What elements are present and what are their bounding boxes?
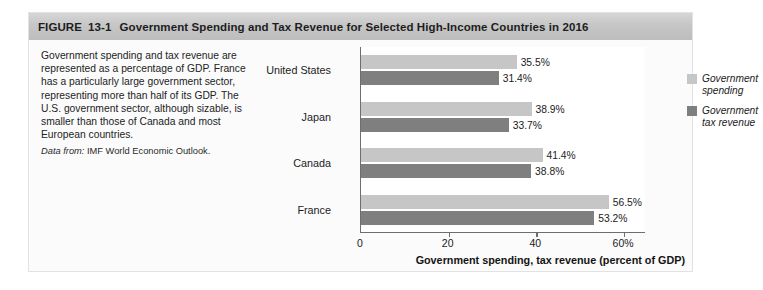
figure-label: FIGURE [38, 21, 82, 33]
bar-value-label: 56.5% [609, 196, 642, 207]
legend-label-revenue: Government tax revenue [702, 105, 763, 130]
category-label-france: France [261, 204, 331, 216]
caption-source: Data from: IMF World Economic Outlook. [41, 145, 259, 157]
bar-value-label: 53.2% [594, 212, 627, 223]
category-axis-labels: United StatesJapanCanadaFrance [261, 47, 331, 233]
legend-swatch-revenue-icon [687, 106, 697, 116]
chart-legend: Government spending Government tax reven… [687, 73, 763, 137]
category-label-united-states: United States [261, 64, 331, 76]
source-lead: Data from: [41, 146, 84, 156]
legend-item-spending: Government spending [687, 73, 763, 98]
chart-area: United StatesJapanCanadaFrance 35.5%31.4… [261, 47, 691, 262]
figure-container: FIGURE 13-1 Government Spending and Tax … [28, 12, 693, 272]
bar-canada-spending [361, 148, 543, 162]
bar-united-states-revenue [361, 71, 499, 85]
x-axis-title: Government spending, tax revenue (percen… [360, 254, 685, 266]
bar-france-revenue [361, 211, 594, 225]
legend-swatch-spending-icon [687, 74, 697, 84]
source-text: IMF World Economic Outlook. [87, 146, 210, 156]
bar-united-states-spending [361, 55, 517, 69]
bar-value-label: 31.4% [499, 73, 532, 84]
x-tick-label: 20 [442, 237, 454, 249]
bar-japan-revenue [361, 118, 509, 132]
figure-number: 13-1 [88, 21, 111, 33]
caption-text: Government spending and tax revenue are … [41, 49, 259, 141]
bar-value-label: 33.7% [509, 119, 542, 130]
bar-france-spending [361, 195, 609, 209]
bar-value-label: 38.9% [532, 103, 565, 114]
caption-block: Government spending and tax revenue are … [41, 49, 259, 157]
bar-japan-spending [361, 102, 532, 116]
bar-value-label: 38.8% [531, 166, 564, 177]
bar-value-label: 41.4% [543, 150, 576, 161]
x-tick-label: 60% [613, 237, 634, 249]
legend-label-spending: Government spending [702, 73, 763, 98]
legend-item-revenue: Government tax revenue [687, 105, 763, 130]
bar-canada-revenue [361, 164, 531, 178]
x-tick-label: 0 [357, 237, 363, 249]
figure-header: FIGURE 13-1 Government Spending and Tax … [29, 13, 692, 40]
plot-area: 35.5%31.4%38.9%33.7%41.4%38.8%56.5%53.2% [360, 47, 645, 233]
bar-value-label: 35.5% [517, 57, 550, 68]
x-tick-label: 40 [530, 237, 542, 249]
category-label-japan: Japan [261, 111, 331, 123]
category-label-canada: Canada [261, 157, 331, 169]
figure-title: Government Spending and Tax Revenue for … [119, 21, 588, 33]
